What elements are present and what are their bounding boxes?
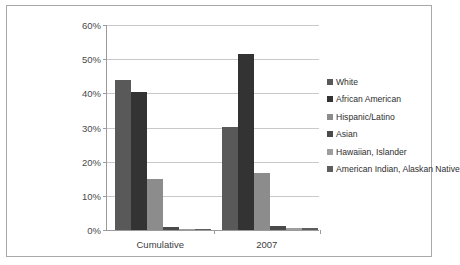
bar bbox=[147, 179, 163, 230]
legend-item[interactable]: American Indian, Alaskan Native bbox=[327, 165, 435, 175]
bar-group: 2007 bbox=[214, 25, 321, 230]
chart-container: 0%10%20%30%40%50%60% Cumulative2007 Whit… bbox=[6, 5, 432, 257]
bar bbox=[179, 229, 195, 230]
y-tick-label: 10% bbox=[82, 190, 101, 201]
bar bbox=[195, 229, 211, 230]
legend-item-label: American Indian, Alaskan Native bbox=[336, 165, 460, 175]
bar-group: Cumulative bbox=[107, 25, 214, 230]
y-tick-label: 50% bbox=[82, 54, 101, 65]
legend-swatch-icon bbox=[327, 166, 333, 172]
legend-item-label: Hispanic/Latino bbox=[336, 113, 395, 123]
bar bbox=[286, 228, 302, 230]
legend-swatch-icon bbox=[327, 131, 333, 137]
plot-area: 0%10%20%30%40%50%60% Cumulative2007 bbox=[106, 25, 319, 230]
legend-swatch-icon bbox=[327, 149, 333, 155]
legend-item-label: Hawaiian, Islander bbox=[336, 148, 407, 158]
y-tick-label: 60% bbox=[82, 20, 101, 31]
legend-swatch-icon bbox=[327, 96, 333, 102]
y-tick-mark bbox=[103, 230, 107, 231]
legend-item[interactable]: White bbox=[327, 78, 435, 88]
bar bbox=[254, 173, 270, 230]
bar bbox=[238, 54, 254, 230]
bar bbox=[222, 127, 238, 230]
x-axis-tick-mark bbox=[214, 230, 215, 234]
bar bbox=[131, 92, 147, 230]
x-axis-tick-mark bbox=[320, 230, 321, 234]
bar bbox=[163, 227, 179, 230]
x-axis-category-label: Cumulative bbox=[107, 239, 214, 250]
legend-item[interactable]: Hispanic/Latino bbox=[327, 113, 435, 123]
y-tick-label: 20% bbox=[82, 156, 101, 167]
legend-item-label: African American bbox=[336, 95, 401, 105]
bar bbox=[302, 228, 318, 230]
x-axis-category-label: 2007 bbox=[214, 239, 321, 250]
legend-item[interactable]: Asian bbox=[327, 130, 435, 140]
bar bbox=[115, 80, 131, 230]
chart-legend: WhiteAfrican AmericanHispanic/LatinoAsia… bbox=[327, 78, 435, 182]
y-tick-label: 30% bbox=[82, 122, 101, 133]
legend-item-label: Asian bbox=[336, 130, 358, 140]
legend-swatch-icon bbox=[327, 114, 333, 120]
bar bbox=[270, 226, 286, 230]
legend-item-label: White bbox=[336, 78, 358, 88]
legend-item[interactable]: Hawaiian, Islander bbox=[327, 148, 435, 158]
y-tick-label: 40% bbox=[82, 88, 101, 99]
legend-item[interactable]: African American bbox=[327, 95, 435, 105]
y-tick-label: 0% bbox=[87, 225, 101, 236]
legend-swatch-icon bbox=[327, 79, 333, 85]
